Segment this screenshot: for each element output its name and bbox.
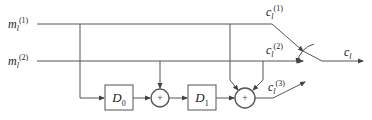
- delay-label-d0: D0: [105, 90, 133, 108]
- input-label-m2: ml(2): [8, 54, 28, 70]
- m1-line: [37, 24, 303, 51]
- output-label-c3: cl(3): [268, 80, 285, 96]
- output-label-c1: cl(1): [266, 5, 283, 21]
- adder-1-plus: +: [154, 94, 166, 102]
- delay-label-d1: D1: [188, 90, 216, 108]
- output-label-cl: cl: [344, 46, 352, 61]
- input-label-m1: ml(1): [8, 17, 28, 33]
- encoder-diagram: [0, 0, 372, 120]
- commutator-switch: [297, 44, 314, 63]
- adder-2-plus: +: [239, 94, 251, 102]
- output-label-c2: cl(2): [266, 43, 283, 59]
